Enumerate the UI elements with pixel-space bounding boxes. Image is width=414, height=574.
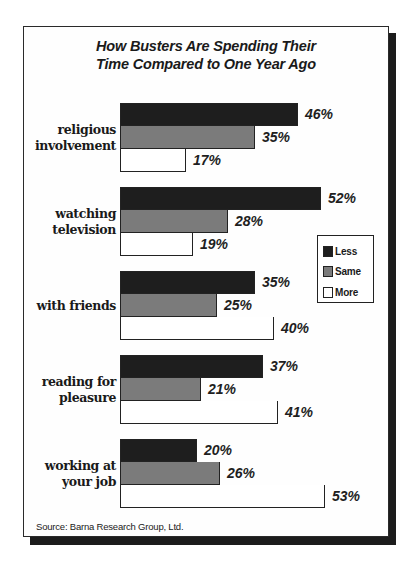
value-label-same: 21%	[208, 378, 236, 401]
legend-item-same: Same	[323, 265, 361, 277]
value-label-more: 40%	[281, 317, 309, 340]
legend: Less Same More	[317, 235, 374, 303]
category-label-line: television	[52, 222, 116, 238]
value-label-less: 52%	[328, 187, 356, 210]
legend-swatch-less	[323, 246, 333, 257]
bar-group: religiousinvolvement46%35%17%	[24, 103, 388, 172]
chart-title-line-1: How Busters Are Spending Their	[24, 37, 388, 55]
value-label-same: 28%	[235, 210, 263, 233]
category-label: with friends	[16, 271, 116, 340]
source-note: Source: Barna Research Group, Ltd.	[36, 521, 183, 532]
value-label-same: 25%	[224, 294, 252, 317]
legend-label-less: Less	[335, 246, 357, 257]
category-label-line: with friends	[37, 298, 116, 314]
bar-same	[120, 210, 228, 233]
chart-frame: How Busters Are Spending Their Time Comp…	[23, 26, 389, 537]
bar-less	[120, 187, 321, 210]
category-label: religiousinvolvement	[16, 103, 116, 172]
bar-group: reading forpleasure37%21%41%	[24, 355, 388, 424]
legend-label-same: Same	[335, 266, 361, 277]
chart-title: How Busters Are Spending Their Time Comp…	[24, 37, 388, 73]
category-label-line: pleasure	[59, 390, 116, 406]
value-label-less: 20%	[204, 439, 232, 462]
legend-item-less: Less	[323, 245, 357, 257]
value-label-more: 19%	[200, 233, 228, 256]
bar-less	[120, 355, 263, 378]
value-label-less: 35%	[262, 271, 290, 294]
value-label-more: 41%	[285, 401, 313, 424]
category-label-line: watching	[55, 206, 116, 222]
value-label-same: 35%	[262, 126, 290, 149]
bar-same	[120, 294, 217, 317]
legend-swatch-same	[323, 266, 333, 277]
category-label: working atyour job	[16, 439, 116, 508]
bar-same	[120, 378, 201, 401]
value-label-more: 53%	[332, 485, 360, 508]
legend-item-more: More	[323, 286, 358, 298]
value-label-less: 46%	[305, 103, 333, 126]
bar-less	[120, 271, 255, 294]
category-label-line: working at	[45, 458, 116, 474]
bar-more	[120, 233, 193, 256]
bar-more	[120, 149, 186, 172]
value-label-same: 26%	[227, 462, 255, 485]
bar-group: working atyour job20%26%53%	[24, 439, 388, 508]
chart-title-line-2: Time Compared to One Year Ago	[24, 55, 388, 73]
bar-more	[120, 317, 274, 340]
value-label-less: 37%	[270, 355, 298, 378]
bar-same	[120, 126, 255, 149]
bar-more	[120, 401, 278, 424]
category-label: reading forpleasure	[16, 355, 116, 424]
category-label: watchingtelevision	[16, 187, 116, 256]
bar-less	[120, 103, 298, 126]
category-label-line: involvement	[35, 138, 116, 154]
value-label-more: 17%	[193, 149, 221, 172]
category-label-line: religious	[58, 122, 116, 138]
legend-label-more: More	[335, 287, 358, 298]
category-label-line: reading for	[42, 374, 116, 390]
bar-more	[120, 485, 325, 508]
legend-swatch-more	[323, 287, 333, 298]
category-label-line: your job	[62, 474, 116, 490]
bar-same	[120, 462, 220, 485]
bar-less	[120, 439, 197, 462]
